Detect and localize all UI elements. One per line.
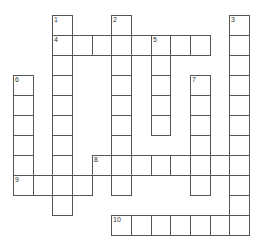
crossword-cell[interactable] [229, 135, 250, 156]
crossword-cell[interactable] [72, 35, 93, 56]
crossword-cell[interactable] [151, 55, 171, 76]
crossword-cell[interactable] [229, 75, 250, 96]
crossword-cell[interactable] [190, 115, 211, 136]
crossword-cell[interactable] [229, 215, 250, 236]
crossword-grid: 14235697810 [0, 0, 260, 251]
clue-number: 5 [153, 36, 157, 44]
crossword-cell[interactable] [151, 95, 171, 116]
clue-number: 9 [15, 176, 19, 184]
crossword-cell[interactable] [151, 155, 171, 176]
crossword-cell[interactable] [131, 155, 152, 176]
crossword-cell[interactable] [13, 95, 34, 116]
crossword-cell[interactable] [229, 115, 250, 136]
crossword-cell[interactable] [72, 175, 93, 196]
crossword-cell[interactable]: 2 [111, 15, 132, 36]
crossword-cell[interactable] [190, 95, 211, 116]
clue-number: 3 [231, 16, 235, 24]
crossword-cell[interactable] [210, 215, 230, 236]
crossword-cell[interactable] [229, 55, 250, 76]
crossword-cell[interactable]: 9 [13, 175, 34, 196]
crossword-cell[interactable] [92, 35, 112, 56]
crossword-cell[interactable] [151, 115, 171, 136]
crossword-cell[interactable] [111, 175, 132, 196]
crossword-cell[interactable] [170, 155, 191, 176]
crossword-cell[interactable] [52, 175, 73, 196]
crossword-cell[interactable] [229, 195, 250, 216]
crossword-cell[interactable] [111, 75, 132, 96]
crossword-cell[interactable] [111, 95, 132, 116]
crossword-cell[interactable]: 6 [13, 75, 34, 96]
crossword-cell[interactable] [111, 135, 132, 156]
clue-number: 7 [192, 76, 196, 84]
crossword-cell[interactable] [190, 135, 211, 156]
crossword-cell[interactable] [111, 115, 132, 136]
crossword-cell[interactable] [52, 55, 73, 76]
clue-number: 4 [54, 36, 58, 44]
crossword-cell[interactable] [170, 35, 191, 56]
crossword-cell[interactable] [151, 215, 171, 236]
crossword-cell[interactable]: 4 [52, 35, 73, 56]
clue-number: 1 [54, 16, 58, 24]
crossword-cell[interactable] [52, 115, 73, 136]
clue-number: 8 [94, 156, 98, 164]
crossword-cell[interactable] [229, 175, 250, 196]
crossword-cell[interactable] [13, 135, 34, 156]
crossword-cell[interactable] [52, 75, 73, 96]
crossword-cell[interactable] [131, 215, 152, 236]
crossword-cell[interactable]: 5 [151, 35, 171, 56]
crossword-cell[interactable]: 1 [52, 15, 73, 36]
crossword-cell[interactable] [190, 215, 211, 236]
crossword-cell[interactable] [33, 175, 53, 196]
crossword-cell[interactable]: 8 [92, 155, 112, 176]
crossword-cell[interactable] [52, 155, 73, 176]
crossword-cell[interactable]: 7 [190, 75, 211, 96]
crossword-cell[interactable] [190, 175, 211, 196]
crossword-cell[interactable] [229, 35, 250, 56]
crossword-cell[interactable] [151, 75, 171, 96]
crossword-cell[interactable] [131, 35, 152, 56]
crossword-cell[interactable] [52, 135, 73, 156]
crossword-cell[interactable] [229, 95, 250, 116]
clue-number: 6 [15, 76, 19, 84]
crossword-cell[interactable]: 3 [229, 15, 250, 36]
crossword-cell[interactable] [210, 155, 230, 176]
crossword-cell[interactable] [52, 95, 73, 116]
crossword-cell[interactable] [190, 35, 211, 56]
crossword-cell[interactable] [111, 155, 132, 176]
crossword-cell[interactable] [170, 215, 191, 236]
crossword-cell[interactable] [13, 155, 34, 176]
clue-number: 2 [113, 16, 117, 24]
crossword-cell[interactable]: 10 [111, 215, 132, 236]
crossword-cell[interactable] [111, 35, 132, 56]
crossword-cell[interactable] [52, 195, 73, 216]
crossword-cell[interactable] [229, 155, 250, 176]
clue-number: 10 [113, 216, 121, 224]
crossword-cell[interactable] [13, 115, 34, 136]
crossword-cell[interactable] [111, 55, 132, 76]
crossword-cell[interactable] [190, 155, 211, 176]
